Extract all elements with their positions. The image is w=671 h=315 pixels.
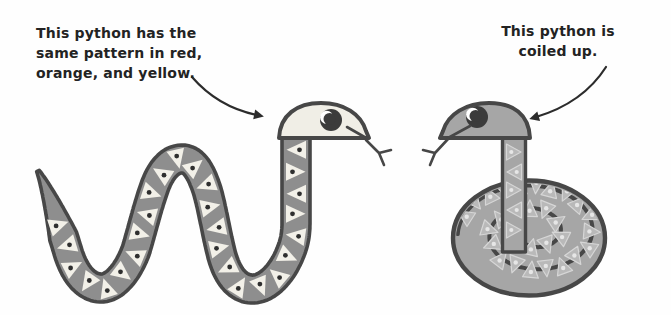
coiled-python-figure — [423, 103, 605, 296]
patterned-python-figure — [37, 103, 391, 303]
right-caption-line: coiled up. — [478, 41, 638, 61]
left-caption-line: This python has the — [36, 23, 202, 43]
left-annotation-arrow-icon — [192, 77, 264, 119]
left-caption-line: same pattern in red, — [36, 43, 202, 63]
right-caption-line: This python is — [478, 21, 638, 41]
illustration-canvas: This python has the same pattern in red,… — [0, 0, 671, 315]
right-annotation-arrow-icon — [529, 67, 606, 121]
right-caption: This python is coiled up. — [478, 21, 638, 61]
left-caption-line: orange, and yellow. — [36, 63, 202, 83]
left-caption: This python has the same pattern in red,… — [36, 23, 202, 83]
